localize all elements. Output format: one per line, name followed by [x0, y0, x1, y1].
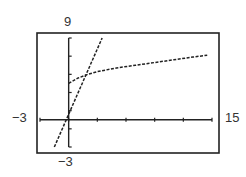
graph-plot: [0, 0, 246, 177]
line-series: [54, 38, 102, 147]
curve-series: [69, 55, 208, 83]
window-frame: [37, 33, 219, 153]
